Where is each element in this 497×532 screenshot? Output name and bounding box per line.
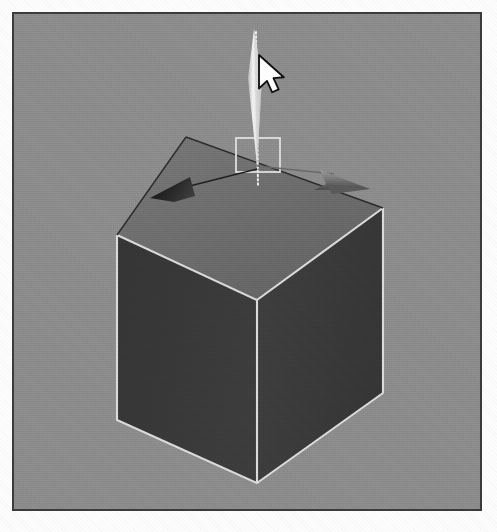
- viewport-canvas[interactable]: [14, 14, 480, 509]
- viewport-frame[interactable]: [12, 12, 482, 511]
- z-axis-handle[interactable]: [248, 29, 262, 166]
- app-root: [0, 0, 497, 532]
- mouse-cursor: [259, 55, 284, 92]
